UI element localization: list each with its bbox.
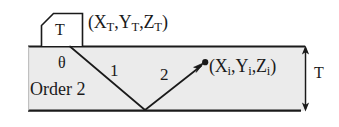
receiver-coordinate-label: (Xi,Yi,Zi) — [209, 57, 276, 75]
receiver-point-marker — [202, 59, 208, 65]
tx-coord-z: Z — [143, 12, 154, 32]
order-annotation-label: Order 2 — [30, 80, 85, 98]
transmitter-label: T — [55, 22, 65, 38]
tx-coord-y-sub: T — [131, 20, 139, 34]
rx-coord-z: Z — [256, 56, 267, 76]
ray-2-label: 2 — [160, 66, 169, 83]
rx-coord-y: Y — [235, 56, 248, 76]
incidence-angle-label: θ — [58, 55, 66, 71]
ray-path-diagram: T (XT,YT,ZT) θ 1 2 (Xi,Yi,Zi) Order 2 T — [0, 0, 339, 127]
tx-coord-x: X — [94, 12, 107, 32]
ray-1-label: 1 — [110, 62, 119, 79]
diagram-canvas — [0, 0, 339, 127]
rx-coord-y-sub: i — [248, 64, 252, 78]
rx-coord-z-sub: i — [267, 64, 271, 78]
transmitter-coordinate-label: (XT,YT,ZT) — [88, 13, 168, 31]
tx-coord-y: Y — [119, 12, 132, 32]
thickness-label: T — [314, 65, 324, 81]
tx-coord-x-sub: T — [107, 20, 115, 34]
rx-coord-x-sub: i — [228, 64, 232, 78]
tx-coord-z-sub: T — [154, 20, 162, 34]
rx-coord-x: X — [215, 56, 228, 76]
